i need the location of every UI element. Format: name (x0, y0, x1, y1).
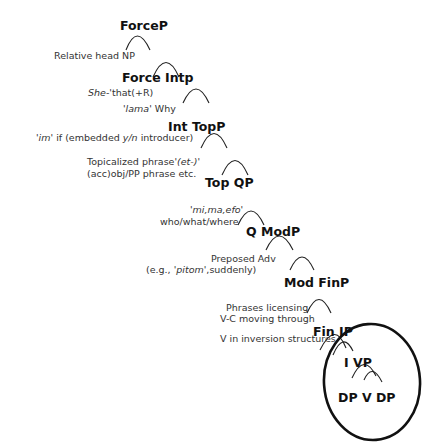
annotation-phrases-licensing: Phrases licensing (226, 302, 308, 313)
annotation-relative-head: Relative head NP (54, 50, 135, 61)
annotation-v-inversion: V in inversion structures (220, 333, 336, 344)
node-mod-finp: Mod FinP (284, 275, 349, 290)
she-rest: -'that(+R) (106, 87, 153, 98)
node-dp-v-dp: DP V DP (338, 390, 395, 405)
annotation-lama-why: 'lama' Why (123, 103, 176, 114)
edge-forcep (126, 36, 150, 50)
im-italic: 'im' (36, 132, 53, 143)
lama-rest: Why (152, 103, 176, 114)
im-rest: introducer) (138, 132, 194, 143)
edge-finp (290, 257, 314, 270)
pitom-pre: (e.g., (146, 264, 174, 275)
edge-vp-branch (364, 371, 382, 382)
node-top-qp: Top QP (205, 175, 254, 190)
edge-qp-branch (222, 161, 248, 176)
pitom-italic: 'pitom' (174, 264, 207, 275)
annotation-topicalized: Topicalized phrase'(et-)' (86, 156, 200, 167)
pitom-post: ,suddenly) (206, 264, 256, 275)
topic-italic: '(et-)' (174, 156, 200, 167)
node-force-intp: Force Intp (122, 70, 194, 85)
annotation-she-that: She-'that(+R) (88, 87, 153, 98)
topic-plain: Topicalized phrase (86, 156, 175, 167)
edge-top-qp (201, 134, 227, 149)
annotation-vc-moving: V-C moving through (220, 313, 315, 324)
edge-finp-branch (307, 300, 331, 314)
annotation-im-if: 'im' if (embedded y/n introducer) (36, 132, 193, 143)
syntax-tree-diagram: ForceP Force Intp Int TopP Top QP Q ModP… (0, 0, 424, 442)
node-forcep: ForceP (120, 18, 168, 33)
annotation-preposed-adv: Preposed Adv (211, 253, 276, 264)
annotation-who-what-where: who/what/where (160, 216, 239, 227)
annotation-pitom: (e.g., 'pitom',suddenly) (146, 264, 256, 275)
she-italic: She (88, 87, 106, 98)
edge-int-topp (183, 89, 209, 103)
annotation-mi-ma-efo: 'mi,ma,efo' (190, 204, 243, 215)
lama-italic: 'lama' (123, 103, 152, 114)
im-mid: if (embedded (53, 132, 123, 143)
node-i-vp: I VP (344, 355, 372, 370)
im-yn: y/n (122, 132, 138, 143)
annotation-acc-obj: (acc)obj/PP phrase etc. (87, 168, 196, 179)
node-q-modp: Q ModP (246, 224, 300, 239)
